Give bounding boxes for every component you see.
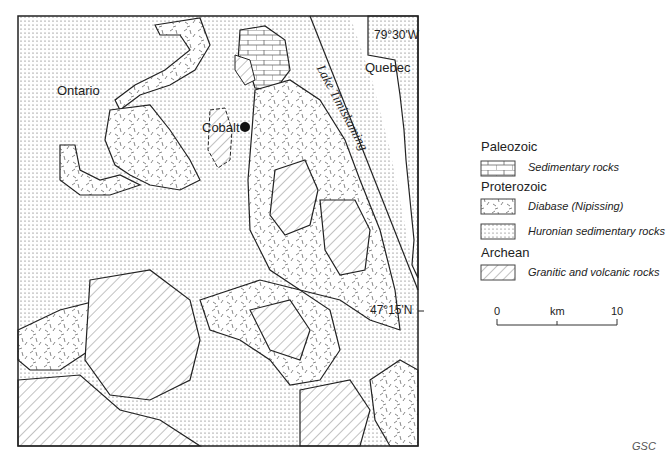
legend-label-huronian: Huronian sedimentary rocks xyxy=(528,225,665,237)
legend-label-granitic: Granitic and volcanic rocks xyxy=(528,266,659,278)
legend-swatch-huronian xyxy=(481,224,515,239)
legend-group-archean: Archean xyxy=(481,245,529,260)
cobalt-marker xyxy=(240,122,250,132)
scale-start: 0 xyxy=(494,305,500,317)
longitude-label: 79°30'W xyxy=(374,28,419,42)
legend-group-paleozoic: Paleozoic xyxy=(481,139,537,154)
credit-gsc: GSC xyxy=(632,440,656,452)
legend-swatch-granitic xyxy=(481,265,515,280)
cobalt-label: Cobalt xyxy=(202,120,240,135)
legend-swatch-diabase xyxy=(481,199,515,214)
latitude-label: 47°15'N xyxy=(370,303,412,317)
scale-end: 10 xyxy=(611,305,623,317)
scale-bar xyxy=(497,319,617,325)
legend-group-proterozoic: Proterozoic xyxy=(481,179,547,194)
scale-unit: km xyxy=(550,305,565,317)
legend-swatch-sedimentary xyxy=(481,161,515,176)
quebec-label: Quebec xyxy=(365,60,411,75)
legend-label-diabase: Diabase (Nipissing) xyxy=(528,200,623,212)
legend-label-sedimentary: Sedimentary rocks xyxy=(528,161,619,173)
ontario-label: Ontario xyxy=(57,83,100,98)
